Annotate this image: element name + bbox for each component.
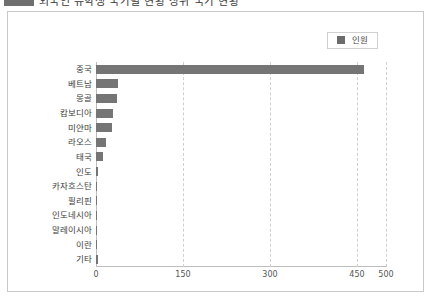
bar-row: 라오스 xyxy=(96,135,386,150)
category-label: 이란 xyxy=(76,239,92,251)
bar-row: 말레이시아 xyxy=(96,223,386,238)
x-tick-label: 0 xyxy=(93,270,98,279)
category-label: 태국 xyxy=(76,151,92,163)
bar-row: 인도 xyxy=(96,165,386,180)
bar-row: 중국 xyxy=(96,62,386,77)
header-badge-icon xyxy=(4,0,34,6)
legend-label: 인원 xyxy=(352,36,368,45)
bar-row: 베트남 xyxy=(96,77,386,92)
bar[interactable] xyxy=(96,152,103,161)
bar[interactable] xyxy=(96,211,97,220)
category-label: 말레이시아 xyxy=(52,224,92,236)
bar-row: 이란 xyxy=(96,238,386,253)
page-title: 외국인 유학생 국가별 현황 상위 국가 현황 xyxy=(39,0,239,8)
x-tick-label: 450 xyxy=(349,270,364,279)
category-label: 미얀마 xyxy=(68,122,92,134)
bar-row: 캄보디아 xyxy=(96,106,386,121)
bar-row: 미얀마 xyxy=(96,121,386,136)
bar[interactable] xyxy=(96,167,98,176)
category-label: 베트남 xyxy=(68,78,92,90)
bar-row: 태국 xyxy=(96,150,386,165)
category-label: 카자흐스탄 xyxy=(52,180,92,192)
bar[interactable] xyxy=(96,226,97,235)
page-header: 외국인 유학생 국가별 현황 상위 국가 현황 xyxy=(0,0,432,9)
bar[interactable] xyxy=(96,196,97,205)
category-label: 기타 xyxy=(76,253,92,265)
category-label: 필리핀 xyxy=(68,195,92,207)
x-tick-label: 150 xyxy=(175,270,190,279)
category-label: 인도 xyxy=(76,166,92,178)
bar[interactable] xyxy=(96,240,97,249)
bar[interactable] xyxy=(96,109,113,118)
gridline xyxy=(386,62,387,267)
x-tick-label: 500 xyxy=(378,270,393,279)
bar-row: 필리핀 xyxy=(96,194,386,209)
category-label: 인도네시아 xyxy=(52,209,92,221)
bar[interactable] xyxy=(96,182,97,191)
chart-legend: 인원 xyxy=(327,32,378,49)
bar-row: 인도네시아 xyxy=(96,208,386,223)
category-label: 라오스 xyxy=(68,136,92,148)
x-tick-label: 300 xyxy=(262,270,277,279)
legend-swatch-icon xyxy=(337,36,345,44)
bar[interactable] xyxy=(96,138,106,147)
bar[interactable] xyxy=(96,79,118,88)
bar[interactable] xyxy=(96,123,112,132)
bar-row: 기타 xyxy=(96,252,386,267)
category-label: 캄보디아 xyxy=(60,107,92,119)
category-label: 몽골 xyxy=(76,92,92,104)
bar[interactable] xyxy=(96,65,364,74)
plot-area: 0150300450500 중국베트남몽골캄보디아미얀마라오스태국인도카자흐스탄… xyxy=(96,62,386,267)
bar-row: 카자흐스탄 xyxy=(96,179,386,194)
category-label: 중국 xyxy=(76,63,92,75)
bar-row: 몽골 xyxy=(96,91,386,106)
chart-container: 인원 0150300450500 중국베트남몽골캄보디아미얀마라오스태국인도카자… xyxy=(7,11,424,292)
bar[interactable] xyxy=(96,255,98,264)
bar[interactable] xyxy=(96,94,117,103)
